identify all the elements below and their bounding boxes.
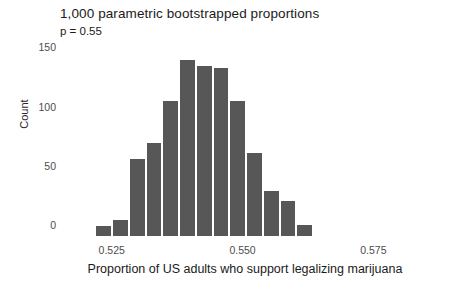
chart-subtitle: p = 0.55 [60,25,102,37]
histogram-bar [246,152,263,237]
y-tick-label: 100 [38,101,56,113]
y-tick-label: 50 [44,160,56,172]
x-tick-label: 0.525 [99,244,125,256]
histogram-figure: 1,000 parametric bootstrapped proportion… [0,0,470,284]
y-axis-label: Count [18,74,30,154]
histogram-bar [62,235,79,237]
histogram-bar [280,200,297,237]
histogram-bar [196,65,213,237]
histogram-bar [146,142,163,237]
plot-area: 050100150 0.5250.5500.5750.600 [62,50,444,237]
histogram-bar [229,100,246,237]
histogram-bar [213,67,230,237]
histogram-bar [162,100,179,237]
x-tick-label: 0.575 [360,244,386,256]
x-axis-label: Proportion of US adults who support lega… [60,262,430,276]
histogram-bar [95,225,112,237]
x-tick-label: 0.550 [229,244,255,256]
histogram-bar [129,158,146,237]
histogram-bar [296,224,313,237]
histogram-bar [112,219,129,237]
histogram-bar [179,59,196,237]
histogram-bar [263,190,280,237]
chart-title: 1,000 parametric bootstrapped proportion… [60,6,319,21]
y-tick-label: 0 [50,219,56,231]
histogram-bar [313,235,330,237]
y-tick-label: 150 [38,41,56,53]
